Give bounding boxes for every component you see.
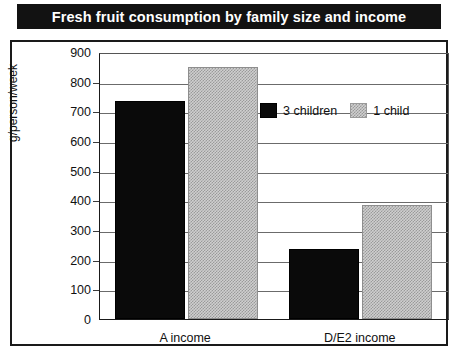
- legend-label: 1 child: [373, 104, 409, 118]
- y-axis-ticks: 0100200300400500600700800900: [12, 53, 91, 320]
- gridline: [100, 84, 448, 85]
- y-axis-tick-label: 900: [70, 46, 91, 60]
- bar-a-income-3-children: [115, 101, 185, 319]
- gray-swatch: [350, 103, 367, 118]
- y-axis-tick-label: 200: [70, 254, 91, 268]
- legend-entry: 3 children: [260, 103, 337, 118]
- y-axis-tick-label: 100: [70, 283, 91, 297]
- black-swatch: [260, 103, 277, 118]
- chart-frame: 0100200300400500600700800900 g/person/we…: [10, 40, 448, 346]
- y-axis-tick-label: 500: [70, 165, 91, 179]
- y-axis-tick-label: 300: [70, 224, 91, 238]
- bar-a-income-1-child: [188, 67, 258, 319]
- x-axis-tick-label: D/E2 income: [324, 331, 396, 345]
- y-axis-tick-label: 400: [70, 194, 91, 208]
- bar-d-e2-income-3-children: [289, 249, 359, 319]
- y-axis-tick-label: 600: [70, 135, 91, 149]
- bar-d-e2-income-1-child: [362, 205, 432, 319]
- legend-entry: 1 child: [350, 103, 409, 118]
- y-axis-tick-label: 0: [84, 313, 91, 327]
- y-axis-tick-label: 700: [70, 105, 91, 119]
- legend-label: 3 children: [283, 104, 337, 118]
- chart-legend: 3 children1 child: [260, 103, 409, 118]
- chart-title-banner: Fresh fruit consumption by family size a…: [17, 4, 441, 29]
- page-title: Fresh fruit consumption by family size a…: [52, 9, 407, 25]
- y-axis-tick-label: 800: [70, 76, 91, 90]
- x-axis-tick-label: A income: [159, 331, 210, 345]
- plot-area: [99, 53, 449, 320]
- y-axis-title: g/person/week: [6, 0, 20, 142]
